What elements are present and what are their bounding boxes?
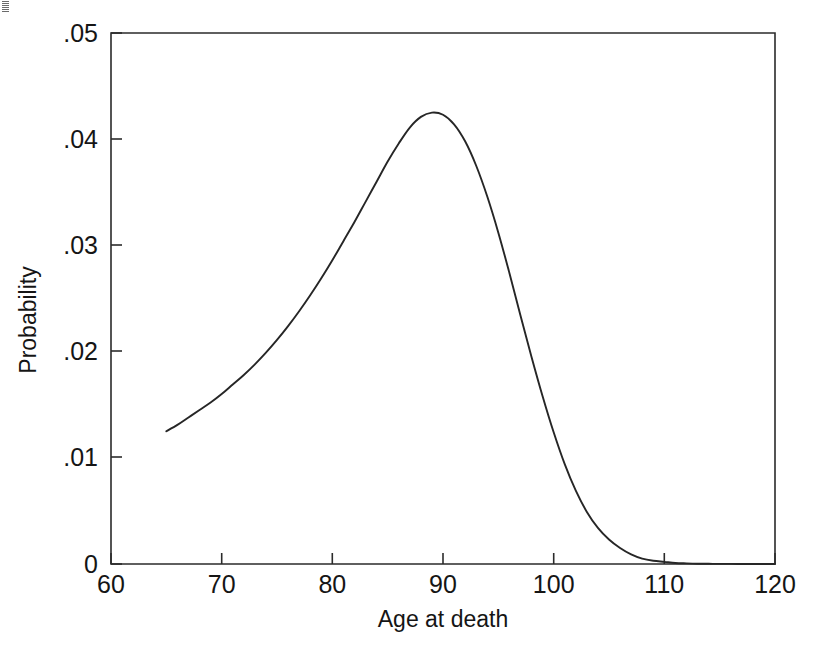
plot-area: 0 .01 .02 .03 .04 .05 60 70 80 90 100 11… <box>0 0 822 658</box>
data-series-curve <box>166 113 775 564</box>
plot-frame-border <box>111 33 775 564</box>
x-tick-label-90: 90 <box>429 570 457 598</box>
x-tick-label-110: 110 <box>644 570 684 598</box>
y-axis-tick-labels: 0 .01 .02 .03 .04 .05 <box>63 19 98 578</box>
y-tick-label-01: .01 <box>63 443 98 471</box>
y-tick-label-03: .03 <box>63 231 98 259</box>
x-tick-label-120: 120 <box>754 570 796 598</box>
x-tick-label-70: 70 <box>208 570 236 598</box>
y-tick-label-02: .02 <box>63 337 98 365</box>
y-axis-title: Probability <box>15 266 41 374</box>
x-tick-label-100: 100 <box>533 570 575 598</box>
y-tick-label-05: .05 <box>63 19 98 47</box>
x-axis-title: Age at death <box>378 606 508 632</box>
x-tick-label-80: 80 <box>318 570 346 598</box>
x-axis-tick-labels: 60 70 80 90 100 110 120 <box>97 570 796 598</box>
y-axis-ticks <box>111 33 122 564</box>
x-tick-label-60: 60 <box>97 570 125 598</box>
y-tick-label-04: .04 <box>63 125 98 153</box>
y-tick-label-0: 0 <box>84 550 98 578</box>
probability-density-chart: 0 .01 .02 .03 .04 .05 60 70 80 90 100 11… <box>0 0 822 658</box>
